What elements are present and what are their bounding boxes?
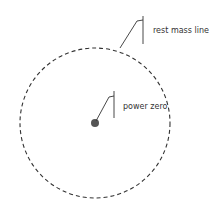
rest-mass-line-label: rest mass line [153,26,209,35]
center-dot [91,119,99,127]
rest-mass-connector [137,20,143,21]
power-zero-connector [109,96,114,97]
diagram-canvas: power zero rest mass line [0,0,209,218]
rest-mass-leader [120,21,137,48]
power-zero-label: power zero [123,102,168,111]
rest-mass-line-callout: rest mass line [120,16,209,48]
power-zero-leader [96,97,109,121]
power-zero-callout: power zero [96,91,168,121]
